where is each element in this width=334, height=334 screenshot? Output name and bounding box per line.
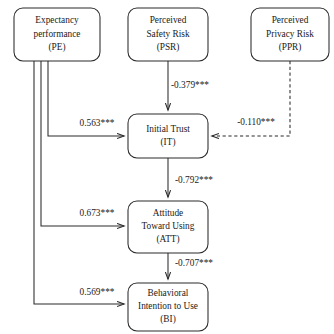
path-model-diagram: Expectancyperformance(PE)PerceivedSafety…	[0, 0, 334, 334]
coefficient-label-psr-to-it: -0.379***	[171, 80, 209, 90]
node-label-psr-line3: (PSR)	[157, 42, 180, 53]
node-label-psr-line2: Safety Risk	[146, 29, 189, 39]
coefficient-label-ppr-to-it: -0.110***	[237, 117, 275, 127]
nodes-layer: Expectancyperformance(PE)PerceivedSafety…	[14, 8, 329, 331]
coefficient-label-att-to-bi: -0.707***	[175, 258, 213, 268]
node-label-it-line2: (IT)	[161, 137, 176, 148]
node-label-att-line2: Toward Using	[142, 221, 195, 231]
node-label-it-line1: Initial Trust	[146, 124, 190, 134]
coefficient-label-it-to-att: -0.792***	[175, 175, 213, 185]
node-label-ppr-line3: (PPR)	[279, 42, 302, 53]
node-psr[interactable]: PerceivedSafety Risk(PSR)	[128, 8, 208, 61]
node-label-ppr-line2: Privacy Risk	[266, 29, 314, 39]
node-label-bi-line1: Behavioral	[148, 288, 189, 298]
path-coefficient-labels: -0.379***0.563***-0.110***-0.792***0.673…	[80, 80, 276, 297]
node-label-pe-line1: Expectancy	[35, 15, 79, 25]
paths-layer	[34, 61, 290, 304]
coefficient-label-pe-to-bi: 0.569***	[80, 287, 115, 297]
node-ppr[interactable]: PerceivedPrivacy Risk(PPR)	[251, 8, 329, 61]
node-bi[interactable]: BehavioralIntention to Use(BI)	[128, 283, 208, 331]
node-label-pe-line2: performance	[34, 29, 81, 39]
node-label-bi-line2: Intention to Use	[138, 301, 198, 311]
node-label-att-line1: Attitude	[153, 208, 183, 218]
node-it[interactable]: Initial Trust(IT)	[128, 114, 208, 158]
node-att[interactable]: AttitudeToward Using(ATT)	[128, 201, 208, 253]
node-label-att-line3: (ATT)	[156, 234, 179, 245]
model-canvas: Expectancyperformance(PE)PerceivedSafety…	[0, 0, 334, 334]
node-label-bi-line3: (BI)	[160, 314, 176, 325]
coefficient-label-pe-to-att: 0.673***	[80, 208, 115, 218]
coefficient-label-pe-to-it: 0.563***	[80, 118, 115, 128]
node-label-psr-line1: Perceived	[150, 15, 187, 25]
node-pe[interactable]: Expectancyperformance(PE)	[14, 8, 100, 61]
node-label-pe-line3: (PE)	[48, 42, 65, 53]
node-label-ppr-line1: Perceived	[272, 15, 309, 25]
path-arrow-pe-to-att	[41, 61, 124, 226]
